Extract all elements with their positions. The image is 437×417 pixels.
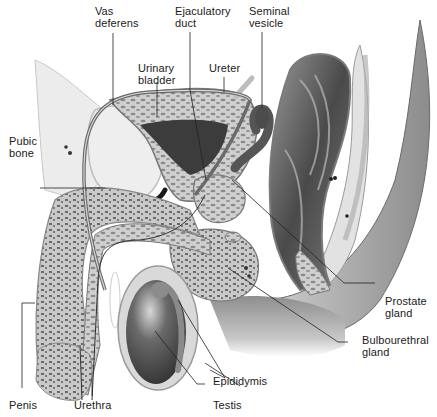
label-epididymis: Epididymis — [213, 375, 267, 387]
anatomy-figure: Vas deferens Ejaculatory duct Seminal ve… — [0, 0, 437, 417]
label-penis: Penis — [9, 399, 37, 411]
label-pubic-bone: Pubic bone — [9, 135, 37, 159]
label-ureter: Ureter — [209, 62, 240, 74]
label-vas-deferens: Vas deferens — [95, 5, 139, 29]
prostate-shape — [194, 175, 246, 223]
label-testis: Testis — [213, 399, 242, 411]
label-urethra: Urethra — [74, 399, 111, 411]
label-ejaculatory-duct: Ejaculatory duct — [175, 5, 231, 29]
glans — [36, 343, 92, 400]
label-seminal-vesicle: Seminal vesicle — [249, 5, 289, 29]
label-urinary-bladder: Urinary bladder — [138, 62, 175, 86]
label-bulbourethral-gland: Bulbourethral gland — [362, 334, 429, 358]
label-prostate-gland: Prostate gland — [385, 295, 427, 319]
